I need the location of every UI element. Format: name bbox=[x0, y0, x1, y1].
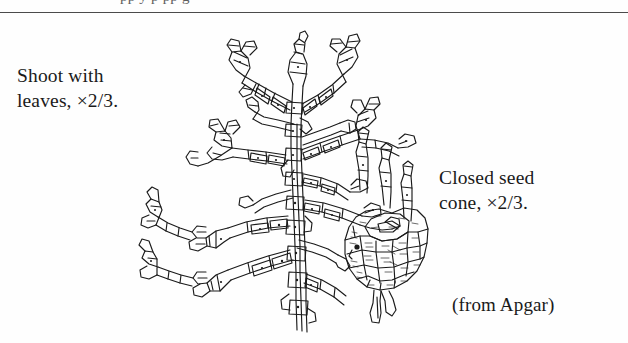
caption-shoot-with-leaves: Shoot with leaves, ×2/3. bbox=[17, 63, 118, 113]
caption-closed-seed-cone: Closed seed cone, ×2/3. bbox=[439, 165, 534, 215]
figure-attribution: (from Apgar) bbox=[452, 292, 555, 317]
seed-cone-drawing bbox=[345, 208, 428, 323]
shoot-drawing bbox=[139, 31, 416, 332]
figure-page: pp y p pp g bbox=[0, 0, 628, 343]
